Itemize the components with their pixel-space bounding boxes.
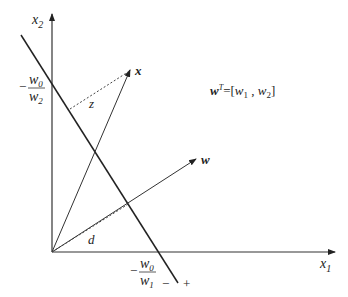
- x1-axis-label: x1: [319, 256, 331, 274]
- distance-d-label: d: [88, 232, 95, 247]
- diagram-canvas: x2 x1 − w0 w2 − w0 w1 − + x w z d wT=[w1…: [0, 0, 348, 297]
- weight-vector-equation: wT=[w1 , w2]: [210, 83, 275, 100]
- svg-text:w1: w1: [140, 273, 154, 290]
- svg-text:−: −: [19, 79, 26, 94]
- vector-x-label: x: [134, 63, 142, 78]
- svg-text:w0: w0: [29, 72, 43, 89]
- x-intercept-label: − w0 w1: [130, 256, 156, 290]
- svg-text:−: −: [130, 263, 137, 278]
- distance-z-label: z: [88, 96, 94, 111]
- positive-region-sign: +: [183, 276, 190, 291]
- decision-boundary: [21, 35, 178, 283]
- svg-text:w0: w0: [140, 256, 154, 273]
- distance-z-line: [70, 72, 128, 109]
- y-intercept-label: − w0 w2: [19, 72, 45, 106]
- x2-axis-label: x2: [31, 12, 43, 30]
- vector-w-label: w: [201, 152, 210, 167]
- negative-region-sign: −: [162, 276, 169, 291]
- svg-text:w2: w2: [29, 89, 43, 106]
